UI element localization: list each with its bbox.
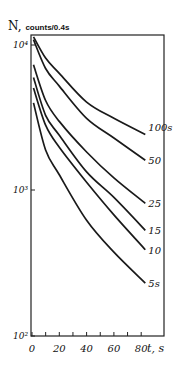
curve-label-5s: 5s [148,278,160,289]
curve-label-15: 15 [148,225,161,236]
x-axis-ticks: 020406080 [29,332,148,354]
y-tick-label: 10² [13,331,28,341]
y-axis-ticks: 10²10³10⁴ [13,40,35,341]
x-tick-label: 60 [108,343,121,354]
x-axis-title: t, s [147,342,164,355]
curve-label-25: 25 [147,198,161,209]
curve-50 [34,40,146,161]
y-tick-label: 10³ [13,185,28,195]
decay-curves-chart: 020406080 10²10³10⁴ 100s502515105s t, s [0,0,178,367]
curve-label-50: 50 [148,155,161,166]
curve-label-10: 10 [148,245,161,256]
curve-5s [34,103,146,283]
curves [34,37,146,283]
plot-frame [31,35,164,336]
x-tick-label: 40 [79,343,93,354]
curve-label-100s: 100s [148,122,172,133]
x-tick-label: 20 [52,343,66,354]
x-tick-label: 0 [29,343,36,354]
curve-labels: 100s502515105s [147,122,172,289]
y-tick-label: 10⁴ [13,40,28,50]
